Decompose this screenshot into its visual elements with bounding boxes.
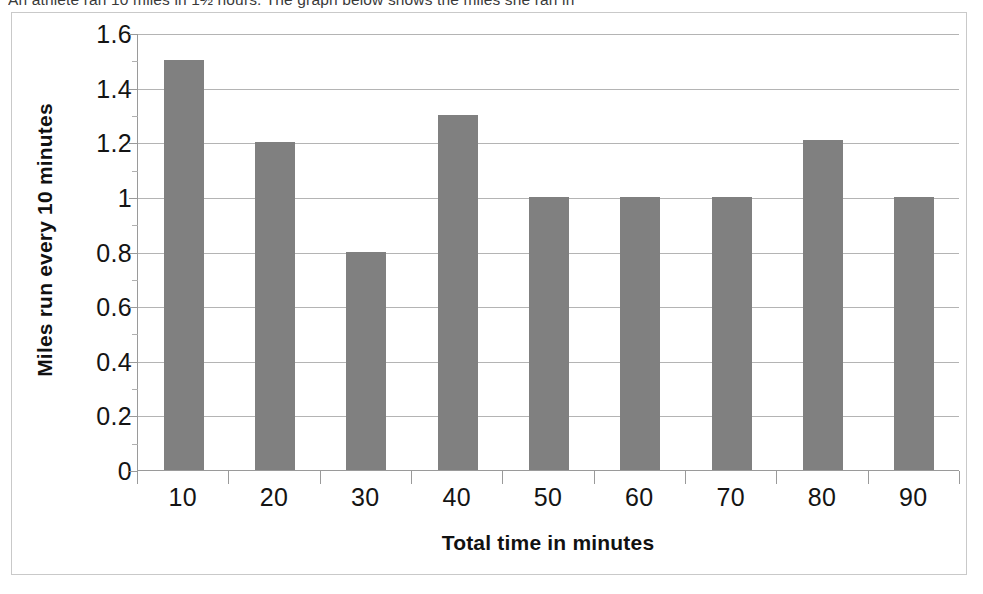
y-tick-mark: [129, 198, 138, 199]
y-tick-label: 0: [56, 457, 132, 486]
bar[interactable]: [620, 197, 660, 470]
bar-slot: [869, 34, 960, 470]
x-tick-label: 80: [808, 483, 836, 512]
y-tick-label: 1.2: [56, 129, 132, 158]
y-tick-mark: [129, 307, 138, 308]
x-axis-tick-labels: 102030405060708090: [137, 483, 959, 523]
bar-slot: [229, 34, 320, 470]
x-tick-label: 60: [625, 483, 653, 512]
y-tick-mark: [129, 89, 138, 90]
y-tick-label: 0.4: [56, 347, 132, 376]
worksheet-page: An athlete ran 10 miles in 1½ hours. The…: [0, 0, 983, 594]
bar-slot: [321, 34, 412, 470]
x-tick-label: 10: [168, 483, 196, 512]
x-tick-label: 50: [534, 483, 562, 512]
y-tick-label: 0.6: [56, 293, 132, 322]
y-tick-mark: [129, 143, 138, 144]
y-tick-mark: [129, 253, 138, 254]
bar[interactable]: [894, 197, 934, 470]
x-axis-title: Total time in minutes: [137, 531, 959, 555]
bar-slot: [503, 34, 594, 470]
header-sentence: An athlete ran 10 miles in 1½ hours. The…: [8, 0, 983, 9]
y-tick-label: 1: [56, 183, 132, 212]
x-tick-label: 20: [260, 483, 288, 512]
bar[interactable]: [164, 60, 204, 470]
bar-slot: [777, 34, 868, 470]
bar-slot: [686, 34, 777, 470]
chart-plot-wrapper: Miles run every 10 minutes 00.20.40.60.8…: [12, 13, 966, 574]
y-tick-label: 0.2: [56, 402, 132, 431]
bar[interactable]: [346, 252, 386, 471]
bar-series: [138, 34, 959, 470]
bar-slot: [138, 34, 229, 470]
y-tick-mark: [129, 416, 138, 417]
x-tick-label: 70: [716, 483, 744, 512]
x-tick-label: 90: [899, 483, 927, 512]
x-tick-mark: [959, 471, 960, 484]
y-tick-label: 1.4: [56, 74, 132, 103]
plot-area: [137, 34, 959, 471]
y-axis-tick-labels: 00.20.40.60.811.21.41.6: [56, 13, 132, 574]
x-tick-label: 40: [442, 483, 470, 512]
bar-slot: [595, 34, 686, 470]
bar[interactable]: [803, 140, 843, 470]
y-tick-label: 1.6: [56, 20, 132, 49]
chart-frame: Miles run every 10 minutes 00.20.40.60.8…: [11, 12, 967, 575]
y-tick-mark: [129, 362, 138, 363]
bar[interactable]: [529, 197, 569, 470]
bar[interactable]: [712, 197, 752, 470]
bar[interactable]: [438, 115, 478, 470]
x-tick-label: 30: [351, 483, 379, 512]
bar[interactable]: [255, 142, 295, 470]
bar-slot: [412, 34, 503, 470]
y-tick-mark: [129, 34, 138, 35]
y-tick-label: 0.8: [56, 238, 132, 267]
y-axis-title: Miles run every 10 minutes: [33, 40, 57, 440]
